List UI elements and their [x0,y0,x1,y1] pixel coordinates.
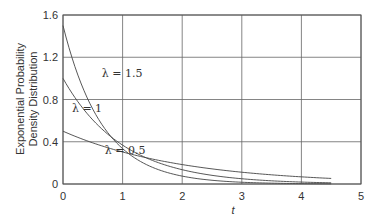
y-axis-label: Exponential Probability Density Distribu… [14,43,39,155]
x-tick-label: 2 [179,190,185,202]
x-tick-label: 4 [298,190,304,202]
y-tick-label: 0.4 [43,136,58,148]
x-tick-label: 1 [120,190,126,202]
y-tick-label: 1.2 [43,51,58,63]
exponential-density-chart: 012345 00.40.81.21.6 λ = 1.5λ = 1λ = 0.5… [0,0,378,223]
curves [63,26,331,184]
curve-annotation: λ = 1.5 [102,67,143,80]
svg-text:Exponential Probability: Exponential Probability [14,43,26,155]
curve-annotations: λ = 1.5λ = 1λ = 0.5 [72,67,145,157]
curve-annotation: λ = 0.5 [105,144,146,157]
grid [63,15,361,184]
curve-annotation: λ = 1 [72,102,102,115]
curve-lambda-0-5 [63,131,331,178]
y-tick-labels: 00.40.81.21.6 [43,9,58,190]
curve-lambda-1-5 [63,26,331,184]
y-tick-label: 1.6 [43,9,58,21]
svg-text:Density Distribution: Density Distribution [27,52,39,147]
x-tick-label: 3 [239,190,245,202]
x-tick-label: 5 [358,190,364,202]
y-tick-label: 0.8 [43,94,58,106]
y-tick-label: 0 [52,178,58,190]
x-axis-label: t [231,204,235,216]
x-tick-labels: 012345 [60,190,364,202]
x-tick-label: 0 [60,190,66,202]
